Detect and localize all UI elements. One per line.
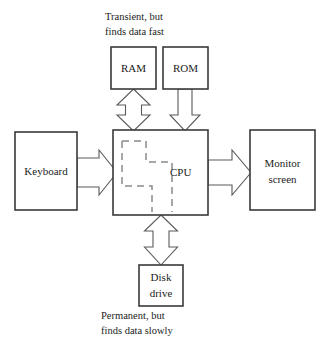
cpu-box-label: CPU — [170, 166, 191, 178]
ram-cpu-bidirectional-arrow — [117, 89, 150, 131]
rom-cpu-down-arrow — [170, 89, 200, 131]
bottom-caption: Permanent, but finds data slowly — [101, 310, 173, 336]
box-monitor[interactable]: Monitor screen — [250, 130, 315, 210]
ram-box-label: RAM — [121, 62, 146, 74]
computer-system-diagram: Transient, but finds data fast RAM ROM — [0, 0, 330, 348]
box-keyboard[interactable]: Keyboard — [15, 132, 77, 210]
keyboard-box-label: Keyboard — [24, 165, 68, 177]
monitor-box-label-line-2: screen — [268, 173, 297, 185]
bottom-caption-line-1: Permanent, but — [101, 310, 165, 321]
cpu-box-rect — [113, 130, 208, 215]
box-rom[interactable]: ROM — [163, 47, 208, 89]
monitor-box-label-line-1: Monitor — [264, 157, 300, 169]
top-caption-line-2: finds data fast — [105, 26, 164, 37]
box-cpu[interactable]: CPU — [113, 130, 208, 215]
box-disk-drive[interactable]: Disk drive — [139, 265, 183, 306]
top-caption-line-1: Transient, but — [105, 11, 163, 22]
rom-box-label: ROM — [173, 62, 198, 74]
box-ram[interactable]: RAM — [111, 47, 156, 89]
diagram-canvas: Transient, but finds data fast RAM ROM — [0, 0, 330, 348]
cpu-disk-bidirectional-arrow — [145, 215, 178, 265]
cpu-monitor-right-arrow — [208, 150, 251, 195]
top-caption: Transient, but finds data fast — [105, 11, 164, 37]
disk-drive-box-label-line-2: drive — [150, 287, 173, 299]
bottom-caption-line-2: finds data slowly — [101, 325, 173, 336]
disk-drive-box-label-line-1: Disk — [151, 271, 172, 283]
keyboard-cpu-right-arrow — [77, 150, 117, 195]
monitor-box-rect — [250, 130, 315, 210]
